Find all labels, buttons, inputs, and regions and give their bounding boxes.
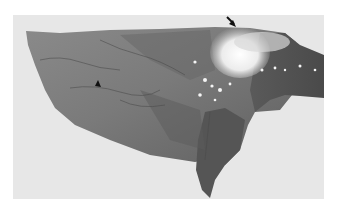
tissue-tail <box>196 108 245 198</box>
arrow-marker-icon <box>227 17 236 27</box>
specimen-illustration <box>13 15 324 199</box>
specimen-photo <box>13 15 324 199</box>
